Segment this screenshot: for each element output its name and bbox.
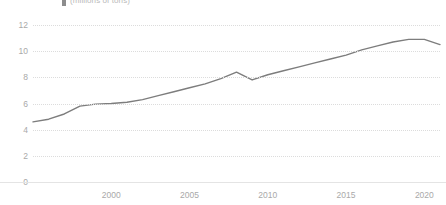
gridline-y-6 <box>33 104 440 105</box>
legend-color-swatch <box>62 0 66 6</box>
gridline-y-2 <box>33 156 440 157</box>
x-tick-label-2020: 2020 <box>415 190 434 200</box>
x-tick-label-2010: 2010 <box>258 190 277 200</box>
gridline-y-12 <box>33 25 440 26</box>
y-axis-labels: 024681012 <box>0 25 28 182</box>
y-tick-label-2: 2 <box>0 151 28 160</box>
y-tick-label-6: 6 <box>0 99 28 108</box>
x-axis-rule <box>0 182 446 183</box>
y-tick-label-8: 8 <box>0 73 28 82</box>
gridline-y-10 <box>33 51 440 52</box>
line-chart: (millions of tons) 024681012 20002005201… <box>0 0 446 205</box>
plot-area <box>33 25 440 182</box>
x-tick-label-2000: 2000 <box>102 190 121 200</box>
x-axis-labels: 20002005201020152020 <box>0 190 446 202</box>
chart-subtitle: (millions of tons) <box>70 0 130 6</box>
x-tick-label-2015: 2015 <box>337 190 356 200</box>
y-tick-label-10: 10 <box>0 47 28 56</box>
legend: (millions of tons) <box>62 0 130 6</box>
x-tick-label-2005: 2005 <box>180 190 199 200</box>
y-tick-label-4: 4 <box>0 125 28 134</box>
chart-header-strip: (millions of tons) <box>0 0 446 10</box>
gridline-y-8 <box>33 77 440 78</box>
y-tick-label-12: 12 <box>0 21 28 30</box>
gridline-y-4 <box>33 130 440 131</box>
